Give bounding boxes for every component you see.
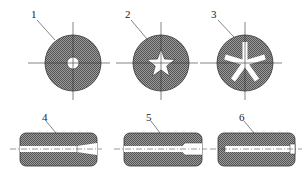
diagram-svg: 1 2 3 4 xyxy=(0,0,307,176)
label-4: 4 xyxy=(42,111,48,123)
longitudinal-section-6: 6 xyxy=(210,111,302,166)
longitudinal-section-5: 5 xyxy=(114,111,207,166)
cross-section-1: 1 xyxy=(28,8,110,100)
label-3: 3 xyxy=(211,8,217,20)
diagram-canvas: 1 2 3 4 xyxy=(0,0,307,176)
longitudinal-section-4: 4 xyxy=(10,111,102,166)
label-1: 1 xyxy=(31,8,37,20)
cross-section-3: 3 xyxy=(200,8,282,100)
label-5: 5 xyxy=(146,111,152,123)
label-6: 6 xyxy=(239,111,245,123)
label-2: 2 xyxy=(125,8,131,20)
cross-section-2: 2 xyxy=(116,8,198,100)
